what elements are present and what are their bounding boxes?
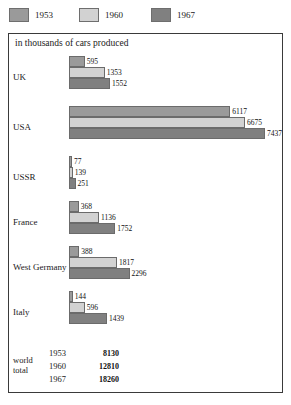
bar-usa-1953 (69, 106, 230, 117)
world-total-year: 1953 (49, 347, 66, 360)
category-label-west-germany: West Germany (13, 262, 67, 272)
chart-row: France36811361752 (9, 201, 282, 237)
legend-swatch-1953-icon (9, 8, 29, 22)
world-total-block: world total 19538130196012810196718260 (9, 345, 282, 391)
world-total-label-line2: total (13, 365, 28, 375)
bar-value-label: 144 (75, 291, 86, 302)
bar-value-label: 6117 (232, 106, 247, 117)
legend-label-1967: 1967 (177, 8, 195, 22)
bar-value-label: 1817 (119, 257, 134, 268)
bar-west-germany-1960 (69, 257, 117, 268)
bar-value-label: 139 (75, 167, 86, 178)
bar-value-label: 6675 (247, 117, 262, 128)
category-label-uk: UK (13, 72, 26, 82)
category-label-ussr: USSR (13, 172, 36, 182)
bar-usa-1967 (69, 128, 265, 139)
chart-frame: in thousands of cars produced UK59513531… (8, 33, 283, 393)
bar-uk-1960 (69, 67, 105, 78)
bar-west-germany-1953 (69, 246, 79, 257)
chart-legend: 1953 1960 1967 (8, 7, 283, 25)
legend-swatch-1967-icon (151, 8, 171, 22)
bar-france-1953 (69, 201, 79, 212)
bar-france-1960 (69, 212, 99, 223)
chart-row: Italy1445961439 (9, 291, 282, 327)
world-total-year: 1967 (49, 373, 66, 386)
category-label-italy: Italy (13, 307, 30, 317)
world-total-label-line1: world (13, 355, 33, 365)
bar-value-label: 1752 (117, 223, 132, 234)
world-total-year: 1960 (49, 360, 66, 373)
world-total-value: 8130 (87, 347, 119, 360)
world-total-value: 12810 (87, 360, 119, 373)
bar-value-label: 1353 (107, 67, 122, 78)
chart-row: USA611766757437 (9, 106, 282, 142)
bar-italy-1967 (69, 313, 107, 324)
bar-italy-1960 (69, 302, 85, 313)
bar-west-germany-1967 (69, 268, 130, 279)
category-label-usa: USA (13, 122, 31, 132)
bar-value-label: 2296 (132, 268, 147, 279)
legend-label-1953: 1953 (35, 8, 53, 22)
bar-ussr-1960 (69, 167, 73, 178)
bar-value-label: 595 (87, 56, 98, 67)
world-total-value: 18260 (87, 373, 119, 386)
world-total-label: world total (13, 355, 33, 375)
chart-row: UK59513531552 (9, 56, 282, 92)
bar-value-label: 368 (81, 201, 92, 212)
chart-row: West Germany38818172296 (9, 246, 282, 282)
chart-figure: 1953 1960 1967 in thousands of cars prod… (0, 0, 291, 405)
bar-value-label: 251 (78, 178, 89, 189)
bar-value-label: 1439 (109, 313, 124, 324)
bar-value-label: 77 (74, 156, 82, 167)
category-label-france: France (13, 217, 38, 227)
bar-france-1967 (69, 223, 115, 234)
legend-label-1960: 1960 (105, 8, 123, 22)
legend-swatch-1960-icon (79, 8, 99, 22)
bar-value-label: 596 (87, 302, 98, 313)
chart-row: USSR77139251 (9, 156, 282, 192)
bar-uk-1967 (69, 78, 110, 89)
bar-value-label: 1136 (101, 212, 116, 223)
bar-value-label: 388 (81, 246, 92, 257)
bar-value-label: 7437 (267, 128, 282, 139)
bar-ussr-1953 (69, 156, 72, 167)
bar-uk-1953 (69, 56, 85, 67)
chart-caption: in thousands of cars produced (15, 38, 128, 48)
bar-usa-1960 (69, 117, 245, 128)
bar-ussr-1967 (69, 178, 76, 189)
bar-value-label: 1552 (112, 78, 127, 89)
bar-italy-1953 (69, 291, 73, 302)
